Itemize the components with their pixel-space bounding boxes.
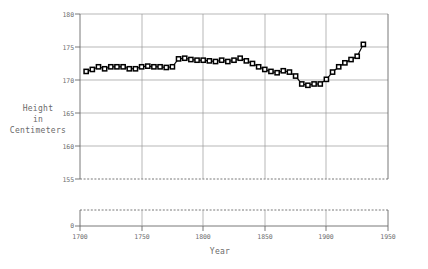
axis-break-x-gridlines bbox=[142, 210, 326, 226]
data-series-line bbox=[86, 44, 363, 85]
data-point-marker bbox=[121, 65, 125, 69]
y-gridlines bbox=[80, 14, 388, 146]
data-point-marker bbox=[189, 57, 193, 61]
data-point-marker bbox=[183, 56, 187, 60]
data-point-marker bbox=[306, 83, 310, 87]
data-point-marker bbox=[300, 82, 304, 86]
data-point-marker bbox=[140, 65, 144, 69]
data-point-marker bbox=[195, 58, 199, 62]
height-over-time-chart: Height in Centimeters Year 180 175 170 1… bbox=[0, 0, 428, 269]
data-point-marker bbox=[263, 67, 267, 71]
data-point-marker bbox=[355, 54, 359, 58]
data-point-marker bbox=[324, 77, 328, 81]
data-point-marker bbox=[103, 67, 107, 71]
data-point-marker bbox=[244, 59, 248, 63]
data-point-marker bbox=[281, 69, 285, 73]
data-point-marker bbox=[170, 65, 174, 69]
data-point-marker bbox=[213, 59, 217, 63]
data-point-marker bbox=[226, 59, 230, 63]
data-point-marker bbox=[115, 65, 119, 69]
data-point-marker bbox=[96, 65, 100, 69]
data-point-marker bbox=[232, 58, 236, 62]
data-point-marker bbox=[109, 65, 113, 69]
data-point-marker bbox=[220, 58, 224, 62]
data-point-marker bbox=[312, 82, 316, 86]
data-point-marker bbox=[318, 82, 322, 86]
data-point-marker bbox=[343, 61, 347, 65]
data-point-marker bbox=[330, 70, 334, 74]
data-point-marker bbox=[176, 57, 180, 61]
data-point-marker bbox=[146, 64, 150, 68]
plot-frame bbox=[80, 14, 388, 179]
plot-area bbox=[0, 0, 428, 269]
data-point-marker bbox=[349, 57, 353, 61]
axis-break-panel bbox=[75, 210, 388, 231]
data-point-marker bbox=[133, 67, 137, 71]
data-point-marker bbox=[361, 42, 365, 46]
data-point-marker bbox=[90, 67, 94, 71]
data-series-markers bbox=[84, 42, 365, 87]
data-point-marker bbox=[127, 67, 131, 71]
data-point-marker bbox=[257, 65, 261, 69]
data-point-marker bbox=[250, 61, 254, 65]
data-point-marker bbox=[201, 58, 205, 62]
y-tick-marks bbox=[75, 14, 80, 179]
data-point-marker bbox=[84, 69, 88, 73]
data-point-marker bbox=[152, 65, 156, 69]
data-point-marker bbox=[294, 74, 298, 78]
data-point-marker bbox=[207, 59, 211, 63]
data-point-marker bbox=[275, 71, 279, 75]
x-tick-marks bbox=[80, 226, 388, 231]
data-point-marker bbox=[238, 56, 242, 60]
data-point-marker bbox=[158, 65, 162, 69]
x-gridlines bbox=[142, 14, 326, 179]
data-point-marker bbox=[287, 70, 291, 74]
data-point-marker bbox=[269, 69, 273, 73]
data-point-marker bbox=[337, 65, 341, 69]
data-point-marker bbox=[164, 65, 168, 69]
